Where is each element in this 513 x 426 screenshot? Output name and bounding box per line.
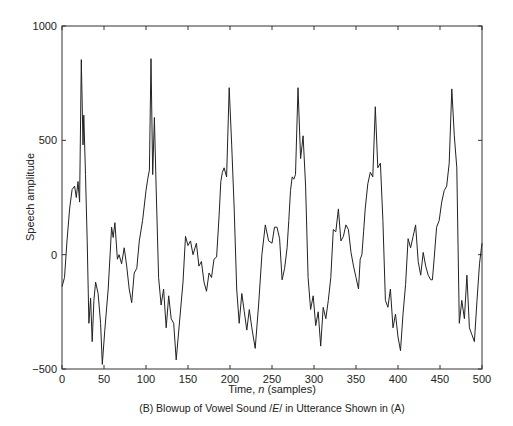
x-tick-label: 400 <box>389 373 407 385</box>
plot-border <box>62 26 482 369</box>
waveform-line <box>62 59 482 365</box>
x-tick-label: 50 <box>98 373 110 385</box>
y-tick-label: 1000 <box>33 20 57 32</box>
x-tick-label: 0 <box>59 373 65 385</box>
x-tick-label: 450 <box>431 373 449 385</box>
plot-area <box>62 26 482 369</box>
x-tick-label: 150 <box>179 373 197 385</box>
figure-caption: (B) Blowup of Vowel Sound /E/ in Utteran… <box>139 402 405 414</box>
y-tick-label: 0 <box>51 249 57 261</box>
speech-waveform-chart: 050100150200250300350400450500 −50005001… <box>0 0 513 426</box>
x-tick-label: 100 <box>137 373 155 385</box>
y-tick-label: −500 <box>32 363 57 375</box>
y-axis-label: Speech amplitude <box>24 153 36 241</box>
y-tick-label: 500 <box>39 134 57 146</box>
x-axis-label: Time, n (samples) <box>228 383 316 395</box>
x-tick-label: 500 <box>473 373 491 385</box>
x-axis: 050100150200250300350400450500 <box>59 26 491 385</box>
x-tick-label: 350 <box>347 373 365 385</box>
